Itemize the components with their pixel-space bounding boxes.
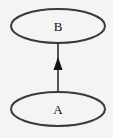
diagram-canvas: B A [0, 0, 113, 138]
node-b-label: B [54, 19, 63, 34]
node-a-label: A [53, 102, 63, 117]
